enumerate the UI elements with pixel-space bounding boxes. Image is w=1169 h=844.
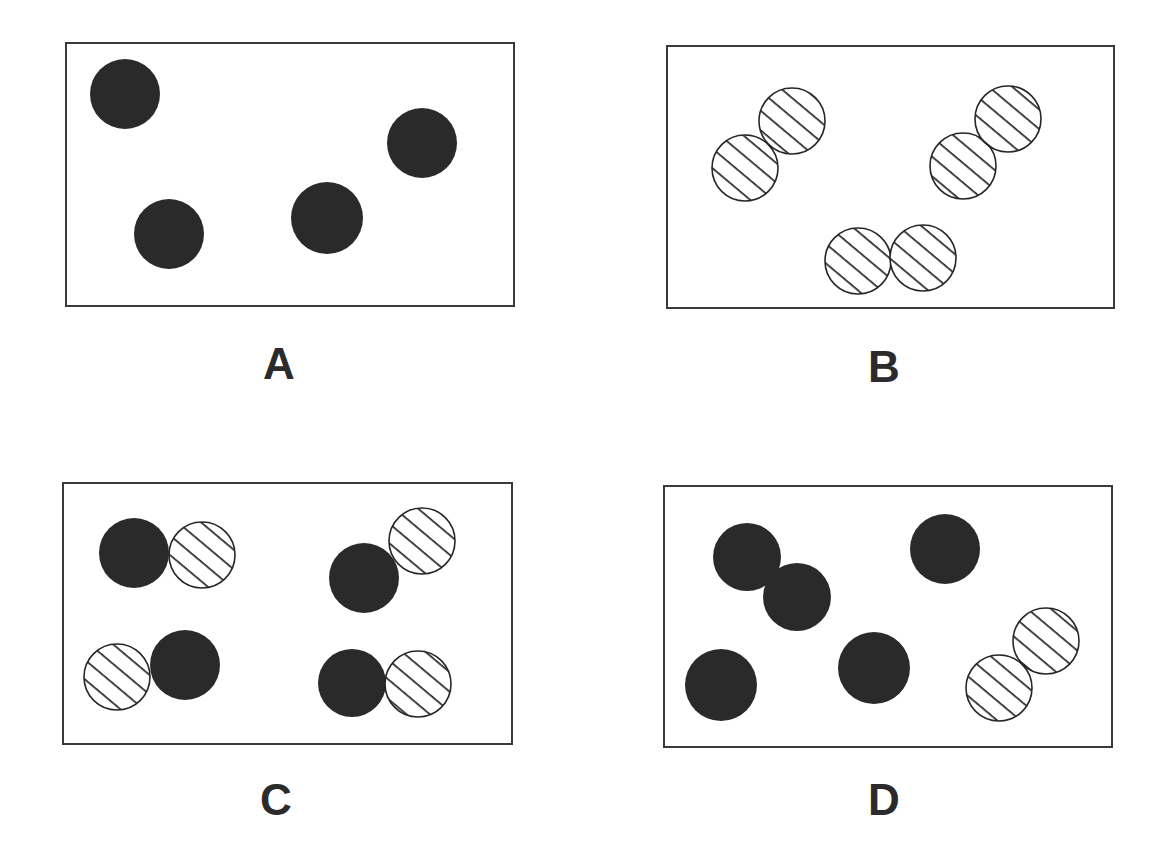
hatched-particle bbox=[84, 644, 150, 710]
hatched-particle bbox=[890, 225, 956, 291]
solid-particle bbox=[150, 630, 220, 700]
solid-particle bbox=[134, 199, 204, 269]
panel-label-d: D bbox=[844, 778, 924, 822]
particle-diagram bbox=[0, 0, 1169, 844]
hatched-particle bbox=[385, 651, 451, 717]
panel-c bbox=[63, 483, 512, 744]
panel-label-b: B bbox=[844, 345, 924, 389]
solid-particle bbox=[318, 649, 386, 717]
solid-particle bbox=[685, 649, 757, 721]
solid-particle bbox=[387, 108, 457, 178]
panel-b bbox=[667, 46, 1114, 308]
panel-label-a: A bbox=[239, 342, 319, 386]
panel-a bbox=[66, 43, 514, 306]
hatched-particle bbox=[759, 88, 825, 154]
hatched-particle bbox=[825, 228, 891, 294]
hatched-particle bbox=[389, 508, 455, 574]
hatched-particle bbox=[169, 522, 235, 588]
panel-d bbox=[664, 486, 1112, 747]
solid-particle bbox=[329, 543, 399, 613]
solid-particle bbox=[838, 632, 910, 704]
solid-particle bbox=[291, 182, 363, 254]
hatched-particle bbox=[975, 86, 1041, 152]
solid-particle bbox=[99, 518, 169, 588]
solid-particle bbox=[910, 514, 980, 584]
panels-layer bbox=[63, 43, 1114, 747]
hatched-particle bbox=[1013, 608, 1079, 674]
panel-label-c: C bbox=[236, 778, 316, 822]
solid-particle bbox=[763, 563, 831, 631]
solid-particle bbox=[90, 59, 160, 129]
